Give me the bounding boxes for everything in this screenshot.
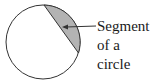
label-line-1: Segment [97, 17, 150, 35]
label-line-3: circle [97, 55, 130, 73]
label-line-2: of a [97, 36, 120, 54]
